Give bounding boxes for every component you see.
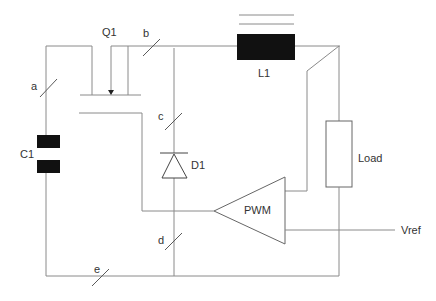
label-d: d (158, 235, 164, 246)
diode-d1-triangle (162, 154, 187, 178)
label-load: Load (358, 153, 382, 164)
label-l1: L1 (258, 68, 270, 79)
wire-e (46, 173, 339, 276)
capacitor-c1-top-plate (37, 135, 60, 148)
label-d1: D1 (191, 160, 205, 171)
label-b: b (143, 28, 149, 39)
circuit-diagram (0, 0, 436, 301)
wire-feedback (285, 46, 339, 191)
inductor-l1 (237, 34, 295, 60)
label-a: a (31, 81, 37, 92)
label-q1: Q1 (102, 27, 117, 38)
label-pwm: PWM (244, 205, 271, 216)
q1-arrow-icon (108, 90, 114, 95)
branch-tick-a (40, 79, 57, 97)
wire-a (46, 46, 92, 135)
capacitor-c1-bottom-plate (37, 160, 60, 173)
label-c: c (158, 111, 164, 122)
label-vref: Vref (401, 225, 421, 236)
resistor-load (326, 121, 352, 187)
branch-tick-b (143, 39, 160, 56)
label-e: e (94, 264, 100, 275)
label-c1: C1 (20, 149, 34, 160)
